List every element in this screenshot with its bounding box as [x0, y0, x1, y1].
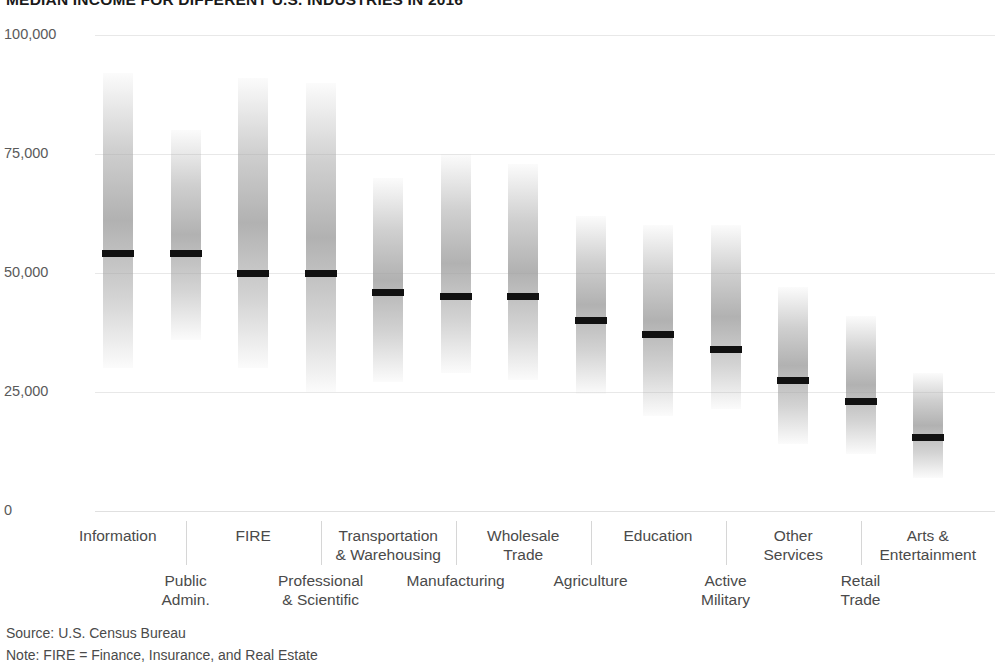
bar-range	[373, 0, 403, 520]
y-axis-tick-text: 100,000	[4, 26, 90, 42]
y-axis-tick-text: 75,000	[4, 145, 90, 161]
bar-body	[103, 73, 133, 368]
bar-range	[441, 0, 471, 520]
bar-range	[171, 0, 201, 520]
x-axis-label-line: Public	[162, 571, 210, 590]
bar-range	[778, 0, 808, 520]
x-axis-label: FIRE	[236, 526, 271, 545]
x-axis-label-line: Military	[701, 590, 750, 609]
bar-range	[306, 0, 336, 520]
median-marker	[642, 331, 674, 338]
bar-body	[441, 154, 471, 373]
chart-footnotes: Source: U.S. Census Bureau Note: FIRE = …	[6, 622, 318, 666]
x-axis-separator	[591, 521, 592, 565]
x-axis-label: WholesaleTrade	[487, 526, 559, 564]
median-marker	[575, 317, 607, 324]
x-axis-label: PublicAdmin.	[162, 571, 210, 609]
bar-body	[238, 78, 268, 368]
median-marker	[845, 398, 877, 405]
x-axis-labels-group: InformationPublicAdmin.FIREProfessional&…	[0, 511, 1002, 615]
x-axis-label: Information	[79, 526, 157, 545]
median-marker	[912, 434, 944, 441]
x-axis-label-line: Admin.	[162, 590, 210, 609]
median-marker	[170, 250, 202, 257]
bar-range	[846, 0, 876, 520]
x-axis-label-line: Other	[764, 526, 823, 545]
x-axis-label-line: Trade	[487, 545, 559, 564]
x-axis-label-line: Manufacturing	[407, 571, 505, 590]
bar-body	[306, 83, 336, 392]
bar-range	[238, 0, 268, 520]
bar-body	[913, 373, 943, 478]
x-axis-label-line: Professional	[278, 571, 363, 590]
x-axis-label-line: Arts &	[880, 526, 977, 545]
y-axis-tick-label: 75,000	[4, 145, 90, 159]
x-axis-label-line: Information	[79, 526, 157, 545]
x-axis-label: Manufacturing	[407, 571, 505, 590]
footer-source: Source: U.S. Census Bureau	[6, 622, 318, 644]
bar-body	[711, 225, 741, 408]
bar-range	[508, 0, 538, 520]
x-axis-label-line: FIRE	[236, 526, 271, 545]
bar-body	[778, 287, 808, 444]
x-axis-label-line: Transportation	[336, 526, 441, 545]
y-axis-tick-label: 100,000	[4, 26, 90, 40]
x-axis-label-line: Retail	[841, 571, 881, 590]
median-marker	[305, 270, 337, 277]
x-axis-label-line: Trade	[841, 590, 881, 609]
median-marker	[777, 377, 809, 384]
x-axis-label-line: Active	[701, 571, 750, 590]
bar-range	[913, 0, 943, 520]
bar-range	[576, 0, 606, 520]
y-axis-tick-label: 50,000	[4, 264, 90, 278]
bar-body	[846, 316, 876, 454]
x-axis-label-line: Wholesale	[487, 526, 559, 545]
x-axis-separator	[456, 521, 457, 565]
x-axis-label-line: & Warehousing	[336, 545, 441, 564]
median-marker	[440, 293, 472, 300]
x-axis-separator	[321, 521, 322, 565]
median-marker	[710, 346, 742, 353]
bar-body	[643, 225, 673, 415]
x-axis-label: Arts &Entertainment	[880, 526, 977, 564]
x-axis-label-line: Services	[764, 545, 823, 564]
bar-body	[508, 164, 538, 381]
x-axis-separator	[186, 521, 187, 565]
x-axis-label: Education	[624, 526, 693, 545]
y-axis-tick-text: 25,000	[4, 383, 90, 399]
y-axis-tick-label: 25,000	[4, 383, 90, 397]
x-axis-separator	[861, 521, 862, 565]
median-marker	[507, 293, 539, 300]
chart-plot-area: 100,00075,00050,00025,0000	[0, 0, 1002, 520]
bar-range	[643, 0, 673, 520]
bar-body	[576, 216, 606, 395]
bar-range	[711, 0, 741, 520]
bar-range	[103, 0, 133, 520]
x-axis-label-line: & Scientific	[278, 590, 363, 609]
x-axis-label: Transportation& Warehousing	[336, 526, 441, 564]
x-axis-separator	[726, 521, 727, 565]
x-axis-label: ActiveMilitary	[701, 571, 750, 609]
bar-body	[373, 178, 403, 383]
x-axis-label: OtherServices	[764, 526, 823, 564]
bar-body	[171, 130, 201, 339]
median-marker	[102, 250, 134, 257]
x-axis-label: Agriculture	[554, 571, 628, 590]
x-axis-label-line: Agriculture	[554, 571, 628, 590]
x-axis-label-line: Education	[624, 526, 693, 545]
footer-note: Note: FIRE = Finance, Insurance, and Rea…	[6, 644, 318, 666]
x-axis-label: Professional& Scientific	[278, 571, 363, 609]
median-marker	[237, 270, 269, 277]
median-marker	[372, 289, 404, 296]
x-axis-label-line: Entertainment	[880, 545, 977, 564]
x-axis-label: RetailTrade	[841, 571, 881, 609]
y-axis-tick-text: 50,000	[4, 264, 90, 280]
